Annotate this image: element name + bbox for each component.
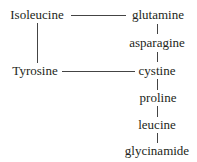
edge-isoleucine-glutamine — [71, 15, 126, 16]
edge-glutamine-asparagine — [157, 24, 158, 34]
node-tyrosine: Tyrosine — [12, 64, 57, 78]
node-cystine: cystine — [139, 64, 176, 78]
edge-asparagine-cystine — [157, 52, 158, 62]
edge-leucine-glycinamide — [157, 133, 158, 143]
edge-isoleucine-tyrosine — [37, 23, 38, 63]
edge-cystine-proline — [157, 79, 158, 90]
node-glycinamide: glycinamide — [125, 144, 189, 158]
node-leucine: leucine — [138, 118, 176, 132]
edge-proline-leucine — [157, 106, 158, 117]
node-glutamine: glutamine — [132, 8, 184, 22]
node-isoleucine: Isoleucine — [10, 8, 63, 22]
edge-tyrosine-cystine — [62, 71, 135, 72]
node-proline: proline — [140, 91, 177, 105]
node-asparagine: asparagine — [129, 36, 185, 50]
